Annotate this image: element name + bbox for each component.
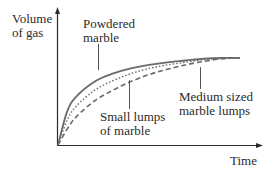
series-label-powdered-line-2: marble (83, 31, 119, 45)
series-label-powdered-line-1: Powdered (83, 17, 135, 31)
x-axis-label: Time (230, 154, 257, 168)
x-axis-arrow-icon (256, 143, 263, 148)
series-label-small-lumps-line-2: of marble (100, 124, 150, 138)
series-label-medium-line-1: Medium sized (179, 90, 253, 104)
y-axis-arrow-icon (55, 7, 60, 14)
series-label-small-lumps-line-1: Small lumps (100, 110, 165, 124)
series-label-medium-line-2: marble lumps (179, 104, 250, 118)
chart: Volume of gas Powdered marble Small lump… (0, 0, 278, 170)
y-axis-label-line-1: Volume (12, 12, 52, 26)
y-axis-label-line-2: of gas (12, 26, 43, 40)
